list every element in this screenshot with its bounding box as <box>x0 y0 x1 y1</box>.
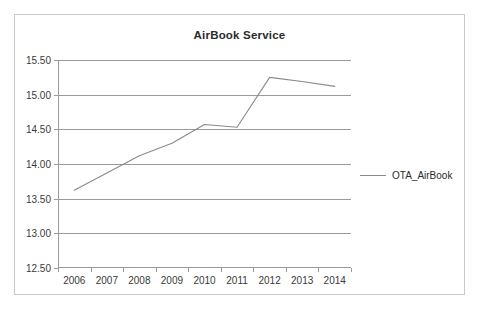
x-axis-tick <box>253 268 254 272</box>
y-axis-tick-label: 14.00 <box>26 159 51 170</box>
x-axis-tick-label: 2012 <box>258 275 280 286</box>
chart-frame: AirBook Service 15.5015.0014.5014.0013.5… <box>14 14 465 295</box>
chart-title: AirBook Service <box>15 29 464 41</box>
x-axis-tick <box>286 268 287 272</box>
y-axis-tick-label: 15.00 <box>26 89 51 100</box>
chart-legend: OTA_AirBook <box>360 170 452 181</box>
y-axis-tick-label: 14.50 <box>26 124 51 135</box>
x-axis-tick <box>188 268 189 272</box>
x-axis-tick-label: 2008 <box>128 275 150 286</box>
x-axis-tick-label: 2013 <box>291 275 313 286</box>
x-axis-tick <box>58 268 59 272</box>
y-axis-tick-label: 12.50 <box>26 263 51 274</box>
legend-item-label: OTA_AirBook <box>392 170 452 181</box>
x-axis-tick-label: 2006 <box>63 275 85 286</box>
x-axis-tick <box>351 268 352 272</box>
x-axis-tick <box>221 268 222 272</box>
y-axis-tick-label: 13.50 <box>26 193 51 204</box>
plot-area: 15.5015.0014.5014.0013.5013.0012.50 2006… <box>58 60 351 268</box>
x-axis-tick-label: 2010 <box>193 275 215 286</box>
y-axis-tick-label: 13.00 <box>26 228 51 239</box>
x-axis-tick-label: 2009 <box>161 275 183 286</box>
x-axis-tick <box>318 268 319 272</box>
x-axis-tick <box>156 268 157 272</box>
series-line-ota-airbook <box>58 60 351 268</box>
y-axis-tick-label: 15.50 <box>26 55 51 66</box>
x-axis-tick-label: 2014 <box>324 275 346 286</box>
x-axis-tick-label: 2007 <box>96 275 118 286</box>
legend-line-swatch-icon <box>360 175 386 176</box>
x-axis-tick-label: 2011 <box>226 275 248 286</box>
x-axis-tick <box>91 268 92 272</box>
x-axis-tick <box>123 268 124 272</box>
